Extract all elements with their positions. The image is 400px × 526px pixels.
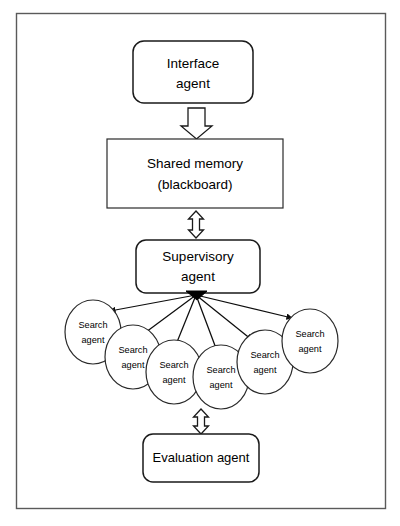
interface-agent-label-line2: agent xyxy=(176,76,210,91)
search-agent-4-label-line2: agent xyxy=(210,380,233,390)
search-agent-6-label-line2: agent xyxy=(299,344,322,354)
interface-agent-label-line1: Interface xyxy=(167,56,220,71)
search-agent-3-label-line2: agent xyxy=(163,375,186,385)
supervisory-agent-label-line1: Supervisory xyxy=(162,249,234,264)
evaluation-agent-label-line1: Evaluation agent xyxy=(153,450,250,465)
search-agent-1-label-line2: agent xyxy=(82,335,105,345)
search-agent-5-label-line2: agent xyxy=(254,365,277,375)
search-agent-5-label-line1: Search xyxy=(250,350,279,360)
shared-memory-box[interactable] xyxy=(107,139,283,208)
search-agent-4-label-line1: Search xyxy=(206,365,235,375)
search-agent-6[interactable]: Search agent xyxy=(282,309,338,373)
search-agent-6-label-line1: Search xyxy=(295,329,324,339)
interface-agent-box[interactable] xyxy=(133,41,253,103)
diagram-root: Interface agent Shared memory (blackboar… xyxy=(0,0,400,526)
node-shared-memory[interactable]: Shared memory (blackboard) xyxy=(107,139,283,208)
shared-memory-label-line1: Shared memory xyxy=(147,156,243,171)
supervisory-agent-label-line2: agent xyxy=(181,269,215,284)
search-agent-1-label-line1: Search xyxy=(78,320,107,330)
node-supervisory-agent[interactable]: Supervisory agent xyxy=(136,240,260,293)
search-agent-6-ellipse[interactable] xyxy=(282,309,338,373)
search-agent-2-label-line1: Search xyxy=(118,345,147,355)
search-agent-3-label-line1: Search xyxy=(159,360,188,370)
shared-memory-label-line2: (blackboard) xyxy=(157,177,232,192)
architecture-diagram: Interface agent Shared memory (blackboar… xyxy=(0,0,400,526)
node-evaluation-agent[interactable]: Evaluation agent xyxy=(143,434,259,482)
node-interface-agent[interactable]: Interface agent xyxy=(133,41,253,103)
search-agent-2-label-line2: agent xyxy=(122,360,145,370)
